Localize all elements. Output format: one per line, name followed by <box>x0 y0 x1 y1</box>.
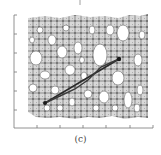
network-figure <box>0 0 161 155</box>
path-end-node <box>117 57 121 61</box>
path-start-node <box>43 101 47 105</box>
panel-label: (c) <box>0 134 161 144</box>
